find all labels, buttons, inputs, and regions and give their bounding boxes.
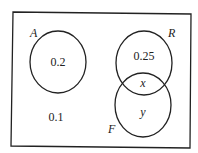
- venn-diagram: A R F 0.2 0.25 x y 0.1: [0, 0, 198, 153]
- label-r: R: [167, 26, 176, 40]
- label-f: F: [107, 122, 116, 136]
- value-r-only: 0.25: [134, 49, 155, 63]
- value-r-f-intersection: x: [139, 76, 146, 90]
- value-a: 0.2: [51, 55, 66, 69]
- universal-set-rectangle: [11, 12, 191, 148]
- value-outside: 0.1: [49, 110, 64, 124]
- label-a: A: [29, 26, 38, 40]
- value-f-only: y: [139, 105, 146, 119]
